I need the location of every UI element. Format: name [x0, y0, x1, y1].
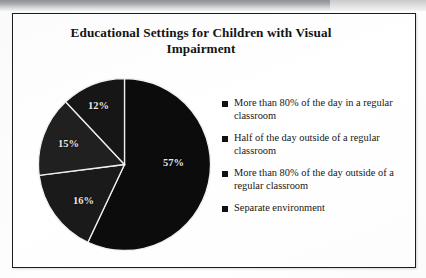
- chart-legend: More than 80% of the day in a regular cl…: [222, 96, 402, 222]
- chart-title-line-2: Impairment: [42, 41, 360, 57]
- pie-chart: 57% 16% 15% 12%: [38, 78, 211, 251]
- pie-slice-label-12: 12%: [88, 100, 109, 111]
- legend-item-label: More than 80% of the day in a regular cl…: [234, 96, 396, 122]
- legend-item-label: Half of the day outside of a regular cla…: [234, 131, 396, 157]
- legend-item[interactable]: More than 80% of the day in a regular cl…: [222, 96, 402, 122]
- legend-item-label: More than 80% of the day outside of a re…: [234, 166, 396, 192]
- pie-slice-label-15: 15%: [58, 138, 79, 149]
- legend-item[interactable]: More than 80% of the day outside of a re…: [222, 166, 402, 192]
- legend-item[interactable]: Separate environment: [222, 201, 402, 214]
- legend-swatch-icon: [222, 101, 228, 107]
- pie-chart-svg: [38, 78, 211, 251]
- pie-slice-label-16: 16%: [73, 195, 94, 206]
- slide-page: Educational Settings for Children with V…: [0, 0, 426, 278]
- legend-swatch-icon: [222, 136, 228, 142]
- scan-edge-band-right: [330, 0, 426, 11]
- legend-item[interactable]: Half of the day outside of a regular cla…: [222, 131, 402, 157]
- chart-title: Educational Settings for Children with V…: [42, 25, 360, 56]
- legend-item-label: Separate environment: [234, 201, 325, 214]
- pie-slice-group: [39, 79, 211, 251]
- legend-swatch-icon: [222, 171, 228, 177]
- chart-title-line-1: Educational Settings for Children with V…: [42, 25, 360, 41]
- pie-slice-label-57: 57%: [163, 157, 184, 168]
- legend-swatch-icon: [222, 206, 228, 212]
